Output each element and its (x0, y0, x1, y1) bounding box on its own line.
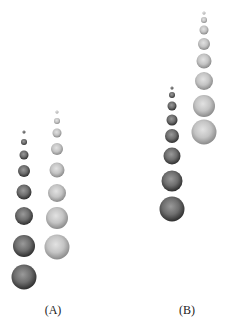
sphere (171, 87, 174, 90)
sphere-column-light (45, 111, 70, 260)
sphere (53, 129, 62, 138)
sphere (23, 131, 26, 134)
sphere (197, 54, 212, 69)
sphere (200, 26, 209, 35)
sphere (17, 185, 32, 200)
sphere (160, 197, 185, 222)
sphere (203, 12, 206, 15)
sphere (192, 120, 217, 145)
sphere (20, 151, 29, 160)
panel-b (160, 12, 217, 222)
sphere (165, 129, 179, 143)
sphere (54, 118, 60, 124)
sphere (164, 148, 181, 165)
sphere-column-light (192, 12, 217, 145)
sphere (193, 95, 215, 117)
sphere (162, 171, 183, 192)
sphere-column-dark (160, 87, 185, 222)
panel-b-label: (B) (179, 303, 195, 318)
sphere (13, 235, 35, 257)
sphere (195, 72, 213, 90)
sphere (46, 207, 68, 229)
sphere (169, 92, 175, 98)
sphere (21, 139, 27, 145)
sphere (51, 143, 63, 155)
sphere (50, 163, 65, 178)
panel-a-label: (A) (45, 303, 62, 318)
sphere (167, 115, 178, 126)
sphere-column-dark (12, 131, 37, 290)
sphere (56, 111, 59, 114)
sphere-figure (0, 0, 225, 331)
panel-a (12, 111, 70, 290)
sphere (12, 265, 37, 290)
sphere (48, 184, 66, 202)
sphere (45, 235, 70, 260)
sphere (168, 102, 177, 111)
sphere (15, 207, 33, 225)
sphere (18, 165, 30, 177)
sphere (201, 17, 207, 23)
sphere (198, 38, 210, 50)
